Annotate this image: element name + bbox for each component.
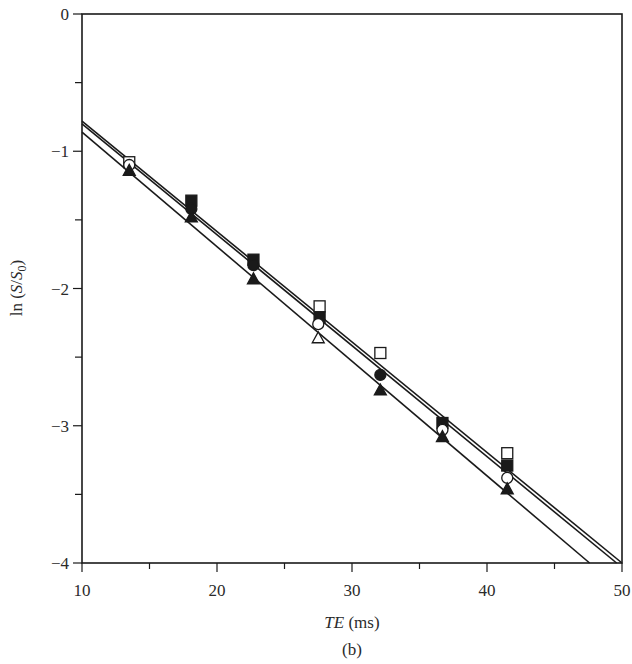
triangle-marker-icon	[312, 332, 324, 343]
triangle-marker-icon	[501, 483, 513, 494]
circle-marker-icon	[375, 369, 386, 380]
fit-lines	[82, 121, 622, 563]
x-axis-label: TE (ms)	[324, 613, 379, 632]
circle-marker-icon	[313, 319, 324, 330]
square-marker-icon	[375, 348, 386, 359]
fit-line	[82, 124, 617, 563]
y-tick-label: −4	[51, 554, 70, 573]
y-tick-label: −3	[51, 417, 69, 436]
square-marker-icon	[502, 460, 513, 471]
circle-marker-icon	[248, 260, 259, 271]
square-marker-icon	[502, 448, 513, 459]
x-tick-label: 40	[479, 581, 496, 600]
y-axis-label: ln (S/S0)	[7, 260, 29, 317]
axis-ticks: 10203040500−1−2−3−4	[51, 5, 631, 600]
chart: 10203040500−1−2−3−4 TE (ms) ln (S/S0) (b…	[0, 0, 632, 664]
data-markers	[123, 157, 513, 494]
plot-border	[82, 14, 622, 563]
x-tick-label: 50	[614, 581, 631, 600]
plot-frame	[82, 14, 622, 563]
x-tick-label: 20	[209, 581, 226, 600]
x-tick-label: 10	[74, 581, 91, 600]
x-tick-label: 30	[344, 581, 361, 600]
y-tick-label: 0	[61, 5, 70, 24]
fit-line	[82, 132, 590, 563]
fit-line	[82, 121, 622, 563]
square-marker-icon	[314, 301, 325, 312]
y-tick-label: −2	[51, 280, 69, 299]
panel-label: (b)	[342, 640, 362, 659]
y-tick-label: −1	[51, 142, 69, 161]
